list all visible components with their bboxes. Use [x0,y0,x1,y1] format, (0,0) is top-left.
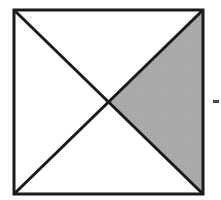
right-edge-tick-icon [213,100,219,103]
figure-canvas [0,0,221,200]
geometry-figure [0,0,221,200]
